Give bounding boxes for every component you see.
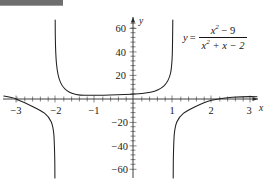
y-tick-label-20: 20 [116,70,127,81]
numerator-exponent: 2 [215,23,219,31]
x-tick-label-3: 3 [246,105,251,116]
y-tick-label-neg40: −40 [112,141,128,152]
y-axis-arrowhead [131,17,135,23]
x-axis-label: x [258,103,264,113]
curve-middle-branch [55,20,173,95]
denominator-rest: + x − 2 [212,39,244,50]
x-tick-label-neg1: −1 [88,105,99,116]
x-tick-label-neg3: −3 [10,105,21,116]
x-tick-label-2: 2 [208,105,213,116]
equation-equals-sign: = [190,32,196,43]
y-tick-label-neg60: −60 [112,164,128,175]
x-tick-label-neg2: −2 [50,105,61,116]
equation-denominator: x2 + x − 2 [199,38,248,51]
x-axis-arrowhead [253,97,259,101]
numerator-rest: − 9 [222,25,236,36]
x-tick-label-1: 1 [169,105,174,116]
equation-numerator: x2 − 9 [208,24,239,37]
figure-container: −3 −2 −1 1 2 3 60 40 20 −20 −40 −60 x y … [0,0,270,183]
denominator-exponent: 2 [206,38,210,46]
equation-fraction: x2 − 9 x2 + x − 2 [199,24,248,51]
y-axis-label: y [138,16,144,26]
curve-right-branch [173,97,257,178]
y-tick-label-neg20: −20 [112,117,128,128]
y-tick-label-40: 40 [116,47,127,58]
equation-annotation: y = x2 − 9 x2 + x − 2 [183,24,247,51]
equation-lhs: y [183,32,188,43]
y-tick-label-60: 60 [116,23,127,34]
